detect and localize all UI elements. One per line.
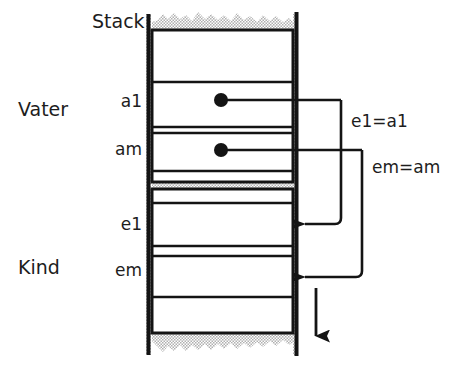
a1-pointer	[214, 93, 341, 107]
e1-assign-arrow	[305, 100, 341, 224]
stack-diagram-graphic	[0, 0, 469, 369]
slot-label-e1: e1	[104, 216, 142, 233]
stack-top-hatch	[152, 12, 295, 30]
stack-title-label: Stack	[92, 12, 145, 31]
stack-bottom-hatch	[152, 333, 295, 352]
region-label-kind: Kind	[18, 258, 60, 277]
slot-label-a1: a1	[104, 93, 142, 110]
am-pointer-dot	[214, 143, 228, 157]
stack-diagram-canvas: Stack Vater Kind a1 am e1 em e1=a1 em=am	[0, 0, 469, 369]
kind-cell-dividers	[152, 203, 293, 297]
slot-label-am: am	[104, 141, 142, 158]
region-label-vater: Vater	[18, 100, 68, 119]
kind-frame	[152, 189, 293, 333]
em-assign-arrow	[305, 150, 362, 277]
slot-label-em: em	[104, 262, 142, 279]
assignment-label-e1-equals-a1: e1=a1	[351, 113, 408, 130]
a1-pointer-dot	[214, 93, 228, 107]
assignment-label-em-equals-am: em=am	[372, 159, 440, 176]
